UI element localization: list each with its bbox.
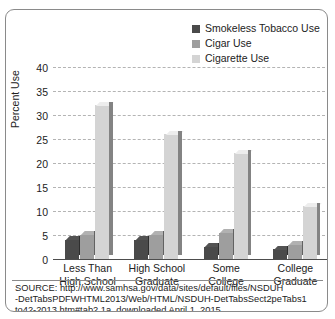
bar (65, 240, 79, 259)
bar (273, 249, 287, 259)
x-axis-label-line: College (261, 262, 328, 275)
bar-face (80, 235, 94, 259)
legend-label: Cigar Use (205, 38, 252, 49)
legend-item-smokeless-tobacco-use: Smokeless Tobacco Use (192, 22, 328, 35)
y-axis-tick-label: 30 (36, 111, 48, 121)
bar-face (134, 240, 148, 259)
bar (149, 235, 163, 259)
bar-face (273, 249, 287, 259)
y-axis-tick-label: 25 (36, 135, 48, 145)
chart-frame: Smokeless Tobacco Use Cigar Use Cigarett… (5, 9, 328, 312)
bar-groups (53, 67, 328, 259)
legend-swatch-icon (192, 40, 200, 48)
bar (219, 233, 233, 259)
y-axis-tick-label: 0 (42, 255, 48, 265)
bar (303, 206, 317, 259)
bar-face (149, 235, 163, 259)
y-axis-tick-label: 35 (36, 87, 48, 97)
bar-group (53, 67, 122, 259)
legend-label: Smokeless Tobacco Use (205, 23, 320, 34)
source-divider (12, 280, 323, 281)
bar (288, 245, 302, 259)
chart-legend: Smokeless Tobacco Use Cigar Use Cigarett… (192, 22, 328, 67)
x-axis-line (53, 259, 328, 260)
y-axis-title: Percent Use (9, 70, 21, 128)
legend-swatch-icon (192, 25, 200, 33)
x-axis-label-line: Some (192, 262, 261, 275)
bar-side (317, 203, 321, 256)
bar-side (178, 131, 182, 256)
y-axis-tick-label: 20 (36, 159, 48, 169)
bar-group (122, 67, 191, 259)
y-axis-tick-label: 15 (36, 183, 48, 193)
bar-side (109, 102, 113, 256)
bar-face (234, 153, 248, 259)
bar-face (219, 233, 233, 259)
x-axis-label-line: High School (122, 262, 191, 275)
bar-group (192, 67, 261, 259)
source-note: SOURCE: http://www.samhsa.gov/data/sites… (15, 283, 327, 312)
bar (204, 247, 218, 259)
source-line: to42-2013.htm#tab2.1a, downloaded April … (15, 305, 327, 312)
bar-face (303, 206, 317, 259)
x-axis-label-line: Less Than (53, 262, 122, 275)
bar-group (261, 67, 328, 259)
y-axis-tick-label: 5 (42, 231, 48, 241)
legend-label: Cigarette Use (205, 53, 269, 64)
bar (164, 134, 178, 259)
bar (234, 153, 248, 259)
bar-face (204, 247, 218, 259)
bar-face (95, 105, 109, 259)
legend-item-cigar-use: Cigar Use (192, 37, 328, 50)
bar-face (65, 240, 79, 259)
source-line: SOURCE: http://www.samhsa.gov/data/sites… (15, 283, 327, 294)
bar-side (248, 150, 252, 256)
legend-swatch-icon (192, 55, 200, 63)
legend-item-cigarette-use: Cigarette Use (192, 52, 328, 65)
bar-face (164, 134, 178, 259)
bar (80, 235, 94, 259)
bar-face (288, 245, 302, 259)
y-axis-tick-label: 40 (36, 63, 48, 73)
plot-area: 4035302520151050 (53, 67, 328, 259)
source-line: -DetTabsPDFWHTML2013/Web/HTML/NSDUH-DetT… (15, 294, 327, 305)
bar (95, 105, 109, 259)
bar (134, 240, 148, 259)
y-axis-tick-label: 10 (36, 207, 48, 217)
